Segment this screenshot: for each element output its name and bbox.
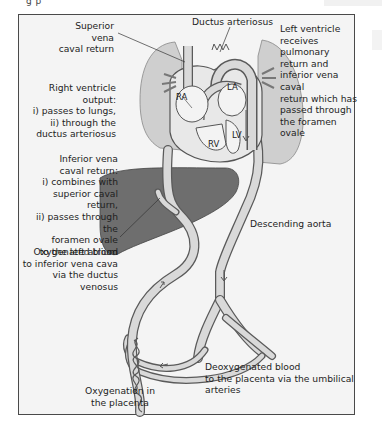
chamber-ra: RA (176, 92, 187, 102)
chamber-la: LA (227, 82, 238, 92)
chamber-lv: LV (232, 130, 242, 140)
label-ductus-arteriosus: Ductus arteriosus (192, 16, 273, 28)
label-right-ventricle-output: Right ventricle output: i) passes to lun… (22, 82, 116, 140)
label-left-ventricle: Left ventricle receives pulmonary return… (280, 23, 360, 139)
label-inferior-vena-caval-return: Inferior vena caval return: i) combines … (22, 153, 118, 257)
label-oxygenation-placenta: Oxygenation in the placenta (80, 385, 160, 408)
label-deoxygenated-blood: Deoxygenated blood to the placenta via t… (205, 361, 355, 396)
label-superior-vena-caval-return: Superior vena caval return (42, 20, 114, 55)
chamber-rv: RV (208, 139, 219, 149)
label-descending-aorta: Descending aorta (250, 218, 331, 230)
label-oxygenated-blood: Oxygenated blood to inferior vena cava v… (22, 246, 118, 292)
